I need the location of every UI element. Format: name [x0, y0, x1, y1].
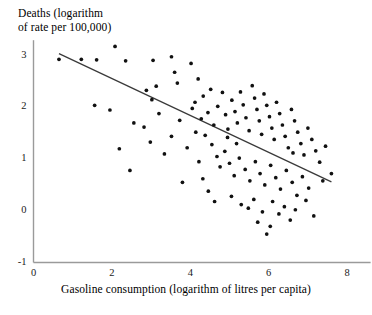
x-tick-label-0: 0: [22, 267, 46, 278]
data-point: [301, 175, 305, 179]
y-tick-label-neg1: -1: [9, 256, 27, 267]
data-point: [253, 96, 257, 100]
data-point: [307, 186, 311, 190]
data-point: [306, 126, 310, 130]
data-point: [321, 179, 325, 183]
data-point: [314, 149, 318, 153]
data-point: [132, 121, 136, 125]
data-point: [157, 112, 161, 116]
data-point: [215, 155, 219, 159]
data-point: [95, 58, 99, 62]
data-point: [150, 98, 154, 102]
data-point: [260, 132, 264, 136]
data-point: [283, 135, 287, 139]
data-point: [203, 133, 207, 137]
data-point: [294, 208, 298, 212]
scatter-plot-figure: Deaths (logarithmof rate per 100,000) Ga…: [0, 0, 372, 315]
data-point: [216, 105, 220, 109]
data-point: [233, 110, 237, 114]
data-point: [299, 142, 303, 146]
data-point: [256, 220, 260, 224]
data-point: [268, 224, 272, 228]
data-point: [212, 123, 216, 127]
data-point: [196, 77, 200, 81]
x-tick-label-6: 6: [257, 267, 281, 278]
y-tick-label-1: 1: [9, 152, 27, 163]
data-point: [281, 123, 285, 127]
y-tick-label-0: 0: [9, 204, 27, 215]
data-point: [228, 161, 232, 165]
data-point: [206, 111, 210, 115]
data-point: [277, 212, 281, 216]
data-point: [224, 113, 228, 117]
data-point: [197, 160, 201, 164]
data-point: [239, 203, 243, 207]
data-point: [213, 200, 217, 204]
data-point: [108, 108, 112, 112]
data-point: [223, 149, 227, 153]
data-point: [235, 142, 239, 146]
data-point: [181, 181, 185, 185]
data-point: [244, 116, 248, 120]
data-point: [330, 172, 334, 176]
data-point: [210, 143, 214, 147]
data-point: [93, 103, 97, 107]
data-point: [189, 62, 193, 66]
data-point: [170, 55, 174, 59]
data-point: [312, 214, 316, 218]
data-point: [270, 126, 274, 130]
data-point: [201, 177, 205, 181]
data-point: [173, 70, 177, 74]
data-point: [237, 156, 241, 160]
data-point: [293, 119, 297, 123]
data-point: [254, 160, 258, 164]
data-point: [278, 112, 282, 116]
data-point: [57, 57, 61, 61]
data-point: [255, 108, 259, 112]
y-tick-label-2: 2: [9, 100, 27, 111]
data-point: [250, 84, 254, 88]
data-point: [263, 183, 267, 187]
data-point: [243, 168, 247, 172]
data-point: [193, 100, 197, 104]
data-point: [296, 130, 300, 134]
data-point: [178, 118, 182, 122]
data-point: [218, 165, 222, 169]
data-point: [246, 206, 250, 210]
data-point: [185, 146, 189, 150]
data-point: [239, 90, 243, 94]
data-point: [271, 200, 275, 204]
data-point: [247, 129, 251, 133]
data-point: [284, 169, 288, 173]
data-point: [272, 138, 276, 142]
data-point: [310, 138, 314, 142]
data-point: [170, 135, 174, 139]
data-point: [274, 176, 278, 180]
data-point: [190, 107, 194, 111]
data-point: [304, 199, 308, 203]
data-point: [265, 103, 269, 107]
data-point: [302, 153, 306, 157]
data-point: [288, 218, 292, 222]
data-point: [258, 172, 262, 176]
data-point: [279, 187, 283, 191]
data-point: [291, 151, 295, 155]
data-point: [252, 198, 256, 202]
data-point: [113, 45, 117, 49]
regression-line: [59, 54, 331, 182]
data-point: [151, 59, 155, 63]
data-point: [79, 57, 83, 61]
data-point-group: [57, 45, 333, 236]
data-point: [230, 194, 234, 198]
data-point: [290, 181, 294, 185]
data-point: [295, 193, 299, 197]
data-point: [221, 91, 225, 95]
x-tick-label-8: 8: [335, 267, 359, 278]
data-point: [145, 88, 149, 92]
data-point: [261, 210, 265, 214]
data-point: [209, 87, 213, 91]
x-tick-label-2: 2: [100, 267, 124, 278]
data-point: [235, 121, 239, 125]
data-point: [286, 146, 290, 150]
x-axis-title: Gasoline consumption (logarithm of litre…: [0, 283, 372, 295]
